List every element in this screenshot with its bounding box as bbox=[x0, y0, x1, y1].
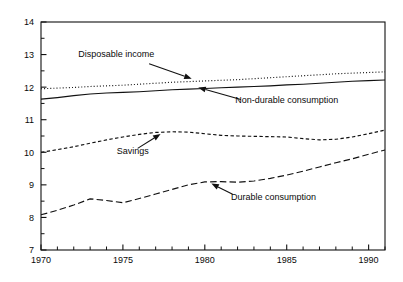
annotation-label: Savings bbox=[117, 146, 150, 156]
annotation-label: Non-durable consumption bbox=[235, 95, 338, 105]
annotation-label: Durable consumption bbox=[231, 192, 316, 202]
annotation-label: Disposable income bbox=[78, 49, 154, 59]
y-tick-label: 8 bbox=[29, 213, 34, 223]
y-axis-tick-labels: 7891011121314 bbox=[24, 17, 34, 255]
x-tick-label: 1980 bbox=[195, 255, 215, 265]
x-tick-label: 1975 bbox=[113, 255, 133, 265]
x-axis-tick-labels: 19701975198019851990 bbox=[31, 255, 379, 265]
y-tick-label: 9 bbox=[29, 180, 34, 190]
x-tick-label: 1990 bbox=[359, 255, 379, 265]
x-tick-label: 1970 bbox=[31, 255, 51, 265]
line-chart: 7891011121314 19701975198019851990 Dispo… bbox=[0, 0, 403, 282]
x-axis-minor-ticks bbox=[57, 247, 385, 251]
chart-container: 7891011121314 19701975198019851990 Dispo… bbox=[0, 0, 403, 282]
y-tick-label: 12 bbox=[24, 83, 34, 93]
y-tick-label: 13 bbox=[24, 50, 34, 60]
y-tick-label: 11 bbox=[25, 115, 34, 125]
y-tick-label: 10 bbox=[24, 148, 34, 158]
y-tick-label: 7 bbox=[29, 245, 34, 255]
x-tick-label: 1985 bbox=[277, 255, 297, 265]
y-tick-label: 14 bbox=[24, 17, 34, 27]
